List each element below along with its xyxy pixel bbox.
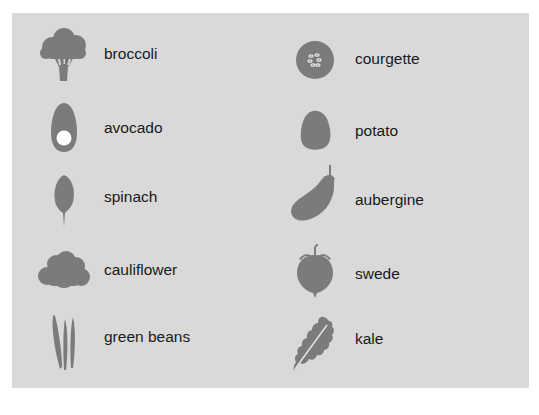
vegetable-label: green beans: [104, 327, 190, 347]
vegetable-label: courgette: [355, 49, 420, 69]
vegetable-item-kale: kale: [285, 313, 505, 373]
vegetable-panel: broccoli avocado spinach: [12, 13, 529, 388]
vegetable-item-courgette: courgette: [285, 30, 505, 90]
spinach-icon: [34, 170, 94, 230]
vegetable-label: avocado: [104, 118, 163, 138]
vegetable-label: aubergine: [355, 190, 424, 210]
vegetable-label: cauliflower: [104, 260, 177, 280]
vegetable-item-potato: potato: [285, 101, 505, 161]
vegetable-label: spinach: [104, 187, 157, 207]
aubergine-icon: [285, 163, 345, 223]
broccoli-icon: [34, 25, 94, 85]
vegetable-item-spinach: spinach: [34, 170, 254, 230]
vegetable-label: kale: [355, 329, 383, 349]
kale-icon: [285, 313, 345, 373]
vegetable-item-broccoli: broccoli: [34, 25, 254, 85]
vegetable-label: broccoli: [104, 44, 157, 64]
vegetable-item-cauliflower: cauliflower: [34, 243, 254, 303]
vegetable-item-avocado: avocado: [34, 97, 254, 157]
vegetable-label: potato: [355, 121, 398, 141]
courgette-icon: [285, 30, 345, 90]
vegetable-item-green-beans: green beans: [34, 313, 254, 373]
potato-icon: [285, 101, 345, 161]
vegetable-item-aubergine: aubergine: [285, 163, 505, 223]
cauliflower-icon: [34, 243, 94, 303]
vegetable-item-swede: swede: [285, 241, 505, 301]
green-beans-icon: [34, 313, 94, 373]
avocado-icon: [34, 97, 94, 157]
vegetable-label: swede: [355, 264, 400, 284]
swede-icon: [285, 241, 345, 301]
